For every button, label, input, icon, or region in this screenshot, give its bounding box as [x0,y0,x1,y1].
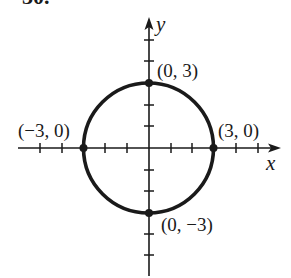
circle-graph: 30. [0,0,291,278]
label-top: (0, 3) [157,60,198,82]
label-bottom: (0, −3) [161,214,213,236]
problem-number: 30. [22,0,50,9]
point-top [145,79,153,87]
y-axis-label: y [154,12,166,36]
point-left [80,144,88,152]
x-axis-label: x [265,151,276,175]
label-right: (3, 0) [218,120,259,142]
point-right [210,144,218,152]
point-bottom [145,209,153,217]
label-left: (−3, 0) [18,120,70,142]
y-axis [144,17,154,276]
